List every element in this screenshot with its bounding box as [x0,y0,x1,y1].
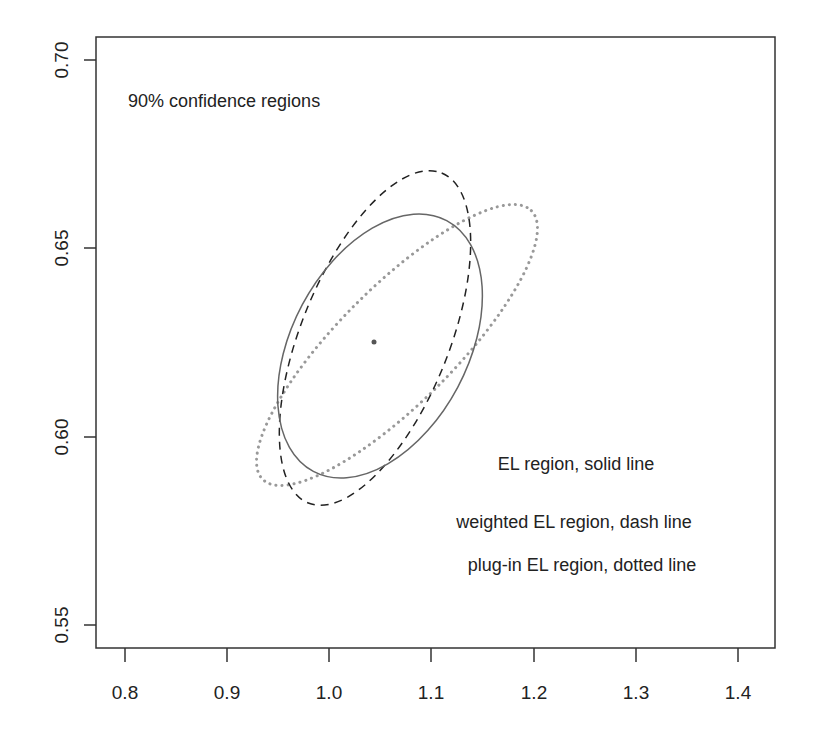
el-region-solid [236,179,525,512]
weighted-el-region-dashed [240,145,511,531]
annotation-title: 90% confidence regions [128,91,320,111]
y-tick-0.65: 0.65 [51,230,72,267]
x-tick-1.3: 1.3 [623,682,649,703]
x-tick-0.9: 0.9 [214,682,240,703]
x-tick-labels: 0.8 0.9 1.0 1.1 1.2 1.3 1.4 [112,682,752,703]
point-estimate-marker [372,340,377,345]
legend-el-solid: EL region, solid line [498,454,654,474]
y-tick-0.55: 0.55 [51,607,72,644]
x-tick-1.0: 1.0 [316,682,342,703]
y-axis [84,60,96,625]
x-tick-0.8: 0.8 [112,682,138,703]
confidence-region-chart: 0.70 0.65 0.60 0.55 0.8 0.9 1.0 1.1 1.2 … [0,0,815,744]
x-tick-1.1: 1.1 [418,682,444,703]
y-tick-0.60: 0.60 [51,419,72,456]
x-tick-1.4: 1.4 [725,682,752,703]
legend-plugin-dotted: plug-in EL region, dotted line [468,555,697,575]
x-axis [125,648,738,662]
x-tick-1.2: 1.2 [521,682,547,703]
y-tick-labels: 0.70 0.65 0.60 0.55 [51,42,72,644]
y-tick-0.70: 0.70 [51,42,72,79]
legend-weighted-dashed: weighted EL region, dash line [455,512,692,532]
